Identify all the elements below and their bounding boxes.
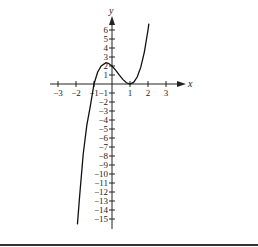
y-axis-arrow-icon <box>109 16 115 25</box>
x-tick-label: −1 <box>89 88 99 98</box>
x-tick-label: −2 <box>71 88 81 98</box>
y-axis-label: y <box>108 5 114 16</box>
x-axis-label: x <box>187 78 193 89</box>
x-tick-label: 1 <box>128 88 133 98</box>
function-curve <box>77 24 148 225</box>
bottom-divider <box>0 244 258 246</box>
y-tick-label: 1 <box>104 70 109 80</box>
x-tick-label: 2 <box>146 88 151 98</box>
x-tick-label: 3 <box>164 88 169 98</box>
y-tick-label: −15 <box>94 214 109 224</box>
cubic-function-graph: x y −3−2−1123 654321−1−2−3−4−5−6−7−8−9−1… <box>0 0 258 247</box>
x-tick-label: −3 <box>53 88 63 98</box>
x-axis-arrow-icon <box>177 81 186 87</box>
